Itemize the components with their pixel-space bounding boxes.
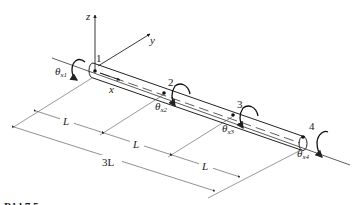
dim-label-L3: L	[201, 160, 208, 172]
shaft-cylinder	[89, 63, 307, 151]
extension-lines	[12, 78, 301, 198]
caption-partial: P bl 7.5	[4, 200, 39, 205]
dim-label-L2: L	[132, 138, 139, 150]
node-label-2: 2	[168, 76, 174, 88]
dim-label-L1: L	[62, 115, 69, 127]
y-axis-label: y	[149, 34, 155, 46]
node-label-1: 1	[96, 52, 102, 64]
node-label-4: 4	[309, 120, 315, 132]
dim-label-3L: 3L	[102, 156, 115, 168]
theta-label-4: θx4	[297, 147, 310, 161]
dimension-lines	[14, 111, 240, 191]
theta-label-1: θx1	[55, 65, 67, 79]
theta-label-3: θx3	[222, 122, 235, 136]
rotation-arrow-4	[317, 131, 328, 157]
node-points	[93, 69, 305, 139]
rotation-arrow-2	[172, 84, 190, 106]
shaft-diagram: z y x 1 2 3 4 θx1 θx2 θx3 θx4	[0, 0, 360, 205]
z-axis-label: z	[85, 10, 91, 22]
rotation-arrow-1	[72, 60, 85, 80]
x-axis-label: x	[108, 83, 114, 95]
